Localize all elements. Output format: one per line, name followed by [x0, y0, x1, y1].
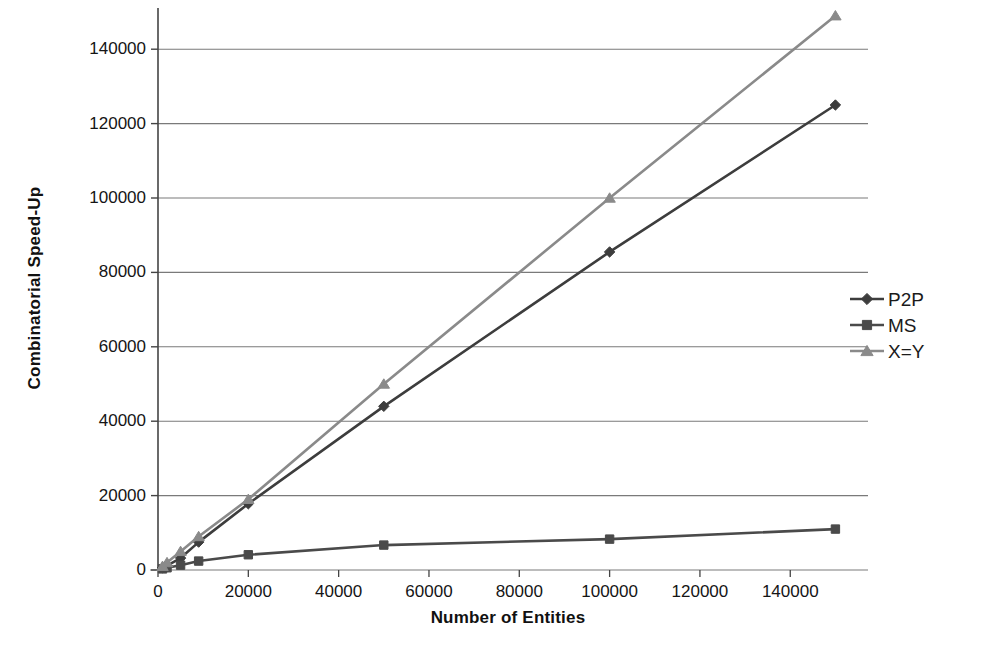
plot-area — [0, 0, 986, 655]
data-point-square — [605, 535, 613, 543]
series-p2p — [157, 100, 840, 573]
x-tick-label: 120000 — [672, 582, 729, 602]
series-x-y — [157, 11, 841, 571]
legend-item-p2p[interactable]: P2P — [848, 286, 978, 312]
chart-container: Combinatorial Speed-Up 02000040000600008… — [0, 0, 986, 655]
x-tick-label: 20000 — [225, 582, 272, 602]
x-tick-label: 0 — [153, 582, 162, 602]
data-point-triangle — [830, 11, 841, 20]
data-point-square — [380, 541, 388, 549]
x-tick-label: 80000 — [496, 582, 543, 602]
chart-legend: P2PMSX=Y — [848, 286, 978, 364]
x-axis-title-wrapper: Number of Entities — [158, 608, 858, 628]
series-layer — [157, 11, 841, 574]
series-line — [163, 105, 836, 568]
gridlines — [158, 49, 868, 495]
x-tick-label: 140000 — [762, 582, 819, 602]
x-axis-tick-marks — [158, 570, 790, 577]
legend-label: MS — [888, 316, 917, 335]
series-line — [163, 529, 836, 569]
series-ms — [158, 525, 839, 573]
data-point-square — [244, 551, 252, 559]
data-point-square — [194, 557, 202, 565]
data-point-square — [831, 525, 839, 533]
x-tick-label: 60000 — [405, 582, 452, 602]
legend-label: X=Y — [888, 342, 924, 361]
series-line — [163, 16, 836, 567]
legend-marker-diamond — [861, 293, 872, 304]
data-point-square — [176, 561, 184, 569]
triangle-marker-icon — [848, 340, 886, 362]
x-tick-label: 100000 — [581, 582, 638, 602]
legend-item-ms[interactable]: MS — [848, 312, 978, 338]
square-marker-icon — [848, 314, 886, 336]
legend-marker-square — [862, 320, 871, 329]
axis-lines — [150, 8, 868, 570]
diamond-marker-icon — [848, 288, 886, 310]
x-tick-label: 40000 — [315, 582, 362, 602]
legend-label: P2P — [888, 290, 924, 309]
x-axis-title: Number of Entities — [431, 608, 586, 627]
legend-item-x-y[interactable]: X=Y — [848, 338, 978, 364]
